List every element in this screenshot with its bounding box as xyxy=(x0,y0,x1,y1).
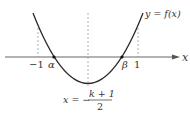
x-axis-arrow-icon xyxy=(172,55,180,60)
parabola-diagram: x −1 α β 1 y = f(x) x = − k + 1 2 xyxy=(0,0,190,114)
parabola-curve xyxy=(33,13,143,84)
tick-label-one: 1 xyxy=(134,59,140,70)
symmetry-prefix: x = − xyxy=(63,94,90,105)
tick-label-beta: β xyxy=(121,59,128,70)
x-axis-label: x xyxy=(182,51,189,64)
symmetry-denominator: 2 xyxy=(97,101,103,112)
tick-label-neg-one: −1 xyxy=(29,59,44,70)
curve-label: y = f(x) xyxy=(144,8,181,19)
symmetry-numerator: k + 1 xyxy=(89,88,115,99)
tick-label-alpha: α xyxy=(48,59,55,70)
